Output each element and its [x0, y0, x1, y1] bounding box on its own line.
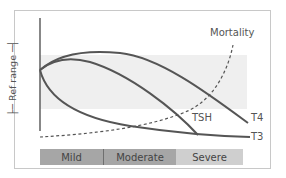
mortality-label: Mortality [210, 27, 254, 39]
y-axis-label: ├─ Ref range ─┤ [6, 30, 20, 126]
stage-moderate: Moderate [104, 149, 176, 165]
stage-mild: Mild [40, 149, 104, 165]
severity-bar: Mild Moderate Severe [40, 149, 243, 165]
t3-label: T3 [251, 131, 263, 143]
tsh-label: TSH [192, 112, 212, 124]
stage-severe: Severe [176, 149, 243, 165]
t4-label: T4 [251, 112, 263, 124]
